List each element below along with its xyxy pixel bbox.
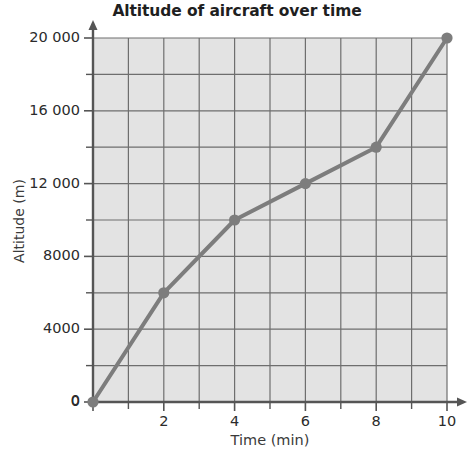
y-tick-label: 8000	[0, 247, 80, 263]
x-tick-label: 2	[144, 413, 184, 429]
y-axis-arrow	[89, 20, 98, 30]
data-point-marker[interactable]	[300, 178, 311, 189]
chart-container: Altitude of aircraft over time Altitude …	[0, 0, 474, 460]
plot-area	[0, 0, 474, 460]
data-point-marker[interactable]	[229, 214, 240, 225]
data-point-marker[interactable]	[441, 32, 452, 43]
x-tick-label: 6	[285, 413, 325, 429]
x-tick-label: 8	[356, 413, 396, 429]
y-tick-label: 12 000	[0, 175, 80, 191]
y-tick-label: 4000	[0, 320, 80, 336]
x-tick-label: 0	[40, 392, 80, 408]
x-tick-label: 10	[427, 413, 467, 429]
x-axis-ticks	[93, 402, 447, 411]
x-tick-label: 4	[215, 413, 255, 429]
data-point-marker[interactable]	[371, 142, 382, 153]
y-axis-ticks	[84, 38, 93, 402]
data-point-marker[interactable]	[87, 396, 98, 407]
y-tick-label: 16 000	[0, 102, 80, 118]
y-tick-label: 20 000	[0, 29, 80, 45]
data-point-marker[interactable]	[158, 287, 169, 298]
x-axis-arrow	[457, 398, 467, 407]
